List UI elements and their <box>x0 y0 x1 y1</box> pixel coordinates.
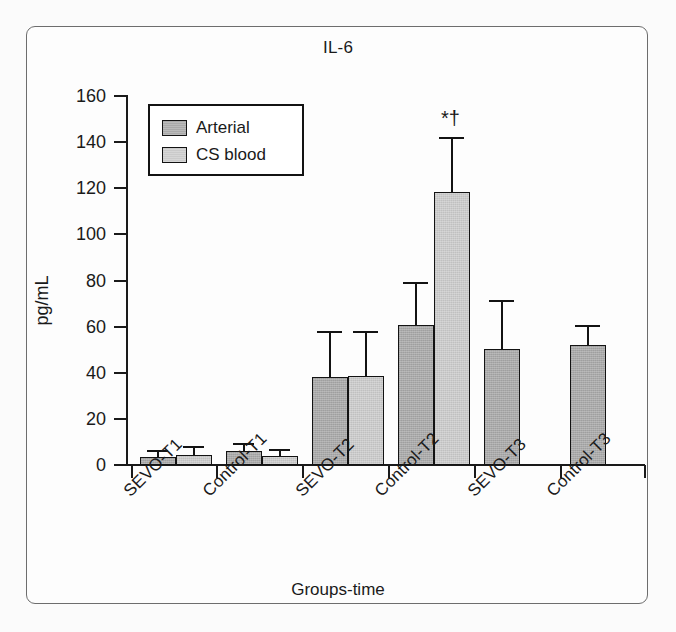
y-tick-60 <box>114 326 126 328</box>
bar-control-t2-cs <box>434 192 470 465</box>
x-tick-boundary-6 <box>644 465 646 478</box>
y-tick-140 <box>114 141 126 143</box>
errorbar-cap-sevo-t2-cs <box>353 331 378 333</box>
y-tick-40 <box>114 372 126 374</box>
y-tick-label-120: 120 <box>40 179 106 197</box>
y-tick-120 <box>114 187 126 189</box>
errorbar-line-control-t2-arterial <box>415 282 417 326</box>
y-tick-20 <box>114 418 126 420</box>
y-axis-line <box>126 95 128 466</box>
y-tick-160 <box>114 95 126 97</box>
legend-label-cs-blood: CS blood <box>196 146 266 163</box>
legend-swatch-arterial <box>162 120 187 136</box>
errorbar-line-sevo-t2-arterial <box>329 331 331 378</box>
errorbar-cap-control-t2-arterial <box>403 282 428 284</box>
errorbar-line-control-t2-cs <box>451 137 453 193</box>
figure-container: IL-6 0 20 40 60 80 100 120 140 160 pg/mL <box>0 0 676 632</box>
errorbar-line-control-t3-arterial <box>587 325 589 346</box>
legend-entry-arterial: Arterial <box>162 114 302 141</box>
errorbar-cap-sevo-t2-arterial <box>317 331 342 333</box>
errorbar-cap-control-t2-cs <box>439 137 464 139</box>
legend-label-arterial: Arterial <box>196 119 250 136</box>
errorbar-cap-control-t1-cs <box>269 449 290 451</box>
y-tick-label-20: 20 <box>40 410 106 428</box>
y-tick-label-40: 40 <box>40 364 106 382</box>
errorbar-line-sevo-t3-arterial <box>501 300 503 350</box>
errorbar-line-sevo-t2-cs <box>365 331 367 377</box>
y-tick-label-160: 160 <box>40 87 106 105</box>
y-tick-80 <box>114 280 126 282</box>
x-tick-label-sevo-t1: SEVO-T1 <box>120 435 187 502</box>
x-axis-label: Groups-time <box>0 580 676 600</box>
errorbar-cap-control-t3-arterial <box>575 325 600 327</box>
bar-control-t1-cs <box>262 456 298 465</box>
y-tick-label-140: 140 <box>40 133 106 151</box>
y-axis-label: pg/mL <box>32 241 53 361</box>
errorbar-cap-sevo-t3-arterial <box>489 300 514 302</box>
legend-entry-cs-blood: CS blood <box>162 141 302 168</box>
legend: Arterial CS blood <box>148 104 304 176</box>
legend-swatch-cs-blood <box>162 147 187 163</box>
y-tick-label-0: 0 <box>40 456 106 474</box>
bar-sevo-t1-cs <box>176 455 212 465</box>
y-tick-0 <box>114 464 126 466</box>
plot-area: 0 20 40 60 80 100 120 140 160 pg/mL <box>0 0 676 632</box>
significance-marker-control-t2-cs: *† <box>441 108 460 128</box>
y-tick-100 <box>114 233 126 235</box>
